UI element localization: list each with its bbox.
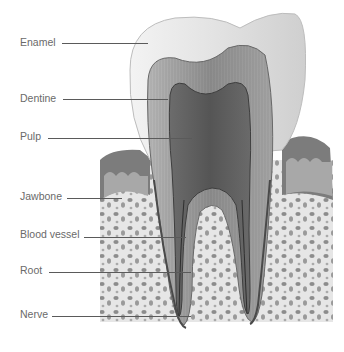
- leader-jawbone: [67, 198, 122, 199]
- leader-enamel: [62, 43, 148, 44]
- label-jawbone: Jawbone: [20, 190, 62, 202]
- label-blood-vessel: Blood vessel: [20, 228, 80, 240]
- leader-dentine: [63, 99, 168, 100]
- tooth-illustration: [0, 0, 344, 352]
- label-root: Root: [20, 264, 42, 276]
- leader-root: [49, 272, 191, 273]
- label-enamel: Enamel: [20, 36, 56, 48]
- label-pulp: Pulp: [20, 130, 41, 142]
- label-nerve: Nerve: [20, 308, 48, 320]
- leader-nerve: [52, 316, 191, 317]
- label-dentine: Dentine: [20, 92, 56, 104]
- leader-pulp: [48, 138, 192, 139]
- leader-blood-vessel: [84, 237, 186, 238]
